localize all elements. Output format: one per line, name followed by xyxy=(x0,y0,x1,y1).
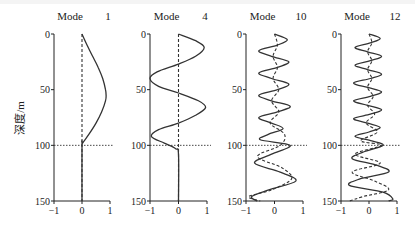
y-tick-label: 50 xyxy=(136,84,146,95)
y-tick-label: 50 xyxy=(232,84,242,95)
y-tick-label: 0 xyxy=(237,29,242,40)
x-tick-label: −1 xyxy=(336,205,347,216)
panel-title-label: Mode xyxy=(154,10,180,22)
panel-mode-4: Mode4050100150−101 xyxy=(131,10,211,216)
mode-shape-chart: 深度/m Mode1050100150−101Mode4050100150−10… xyxy=(0,0,415,226)
x-tick-label: 0 xyxy=(367,205,372,216)
panel-mode-10: Mode10050100150−101 xyxy=(227,10,307,216)
panel-title-label: Mode xyxy=(250,10,276,22)
x-tick-label: 0 xyxy=(176,205,181,216)
x-tick-label: 1 xyxy=(108,205,113,216)
y-tick-label: 0 xyxy=(332,29,337,40)
panels-group: Mode1050100150−101Mode4050100150−101Mode… xyxy=(35,10,401,216)
x-tick-label: 1 xyxy=(395,205,400,216)
x-tick-label: 0 xyxy=(80,205,85,216)
x-tick-label: −1 xyxy=(241,205,252,216)
y-tick-label: 100 xyxy=(131,140,146,151)
dashed-curve xyxy=(249,34,292,201)
solid-curve xyxy=(82,34,106,201)
solid-curve xyxy=(150,34,206,201)
panel-title-number: 4 xyxy=(202,10,208,22)
y-axis-label: 深度/m xyxy=(13,101,26,135)
solid-curve xyxy=(348,34,392,201)
panel-title-number: 12 xyxy=(390,10,401,22)
y-tick-label: 100 xyxy=(35,140,50,151)
panel-title-label: Mode xyxy=(344,10,370,22)
y-tick-label: 100 xyxy=(322,140,337,151)
panel-title-number: 10 xyxy=(296,10,308,22)
panel-mode-12: Mode12050100150−101 xyxy=(322,10,401,216)
x-tick-label: 1 xyxy=(205,205,210,216)
y-tick-label: 0 xyxy=(45,29,50,40)
x-tick-label: 0 xyxy=(272,205,277,216)
panel-mode-1: Mode1050100150−101 xyxy=(35,10,114,216)
x-tick-label: −1 xyxy=(145,205,156,216)
y-tick-label: 100 xyxy=(227,140,242,151)
x-tick-label: 1 xyxy=(301,205,306,216)
y-tick-label: 0 xyxy=(141,29,146,40)
x-tick-label: −1 xyxy=(49,205,60,216)
y-tick-label: 50 xyxy=(327,84,337,95)
y-tick-label: 50 xyxy=(40,84,50,95)
panel-title-number: 1 xyxy=(105,10,111,22)
panel-title-label: Mode xyxy=(57,10,83,22)
